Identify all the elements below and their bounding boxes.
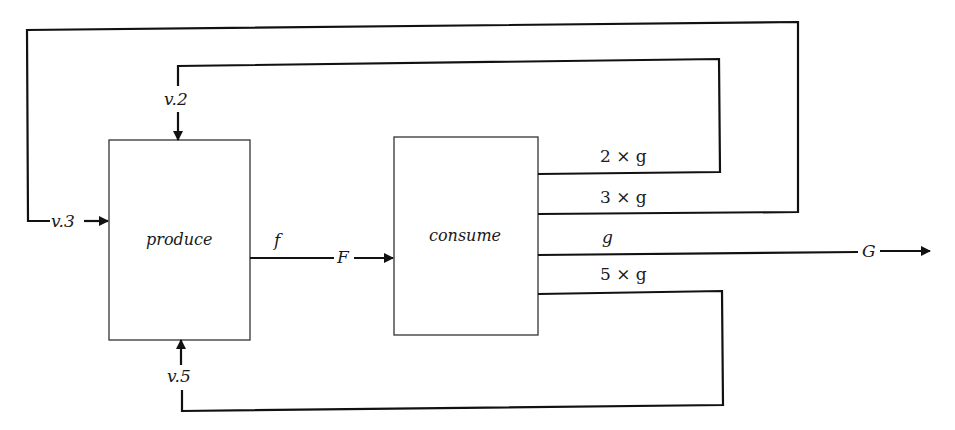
label-v5: v.5 xyxy=(167,368,191,385)
label-2g: 2 × g xyxy=(600,148,647,165)
consume-label: consume xyxy=(429,226,501,245)
label-3g: 3 × g xyxy=(600,189,647,206)
produce-label: produce xyxy=(146,230,213,249)
edge-5g-to-v5 xyxy=(182,291,723,411)
label-F: F xyxy=(337,249,349,266)
label-5g: 5 × g xyxy=(600,266,647,283)
edge-3g-to-v3 xyxy=(27,22,798,221)
diagram-canvas xyxy=(0,0,955,430)
edge-g xyxy=(538,252,858,255)
label-G: G xyxy=(862,243,876,260)
label-f: f xyxy=(274,232,280,249)
label-v3: v.3 xyxy=(51,213,75,230)
label-v2: v.2 xyxy=(164,91,188,108)
label-g: g xyxy=(602,229,613,246)
